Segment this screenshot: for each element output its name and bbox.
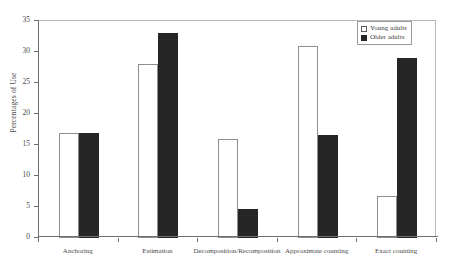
y-tick-label: 30	[23, 46, 31, 55]
x-axis-tick	[277, 238, 278, 242]
legend-item: Older adults	[361, 33, 407, 42]
legend-item-label: Young adults	[370, 24, 407, 33]
bar-chart-figure: Percentages of Use 05101520253035 Anchor…	[0, 0, 452, 268]
x-axis-category-label: Anchoring	[63, 247, 93, 255]
bar-young-adults	[138, 64, 158, 238]
open-square-icon	[361, 26, 367, 32]
bar-young-adults	[298, 46, 318, 238]
x-axis-category-label: Estimation	[142, 247, 172, 255]
bar-older-adults	[238, 209, 258, 238]
bar-older-adults	[397, 58, 417, 238]
bar-young-adults	[59, 133, 79, 238]
plot-area	[38, 20, 436, 237]
x-axis-tick	[197, 238, 198, 242]
bar-older-adults	[158, 33, 178, 238]
y-tick-label: 5	[26, 201, 30, 210]
x-axis-category-label: Decomposition/Recomposition	[193, 247, 280, 255]
y-tick-label: 10	[23, 170, 31, 179]
legend-item-label: Older adults	[370, 33, 404, 42]
y-tick-label: 15	[23, 139, 31, 148]
y-tick-label: 0	[26, 232, 30, 241]
bar-older-adults	[79, 133, 99, 238]
y-tick-label: 25	[23, 77, 31, 86]
bar-young-adults	[218, 139, 238, 238]
x-axis-category-label: Approximate counting	[285, 247, 348, 255]
x-axis-tick	[356, 238, 357, 242]
chart-legend: Young adultsOlder adults	[357, 21, 412, 45]
bar-young-adults	[377, 196, 397, 238]
y-tick-label: 20	[23, 108, 31, 117]
bar-older-adults	[318, 135, 338, 238]
x-axis-category-label: Exact counting	[375, 247, 417, 255]
filled-square-icon	[361, 35, 367, 41]
y-axis-title: Percentages of Use	[9, 38, 18, 168]
x-axis-tick	[436, 238, 437, 242]
y-tick-label: 35	[23, 15, 31, 24]
legend-item: Young adults	[361, 24, 407, 33]
x-axis-tick	[118, 238, 119, 242]
